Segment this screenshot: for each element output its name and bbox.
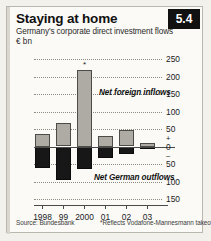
y-tick-neg150: 150 <box>166 195 180 204</box>
y-tick-250: 250 <box>166 55 180 64</box>
y-tick-100: 100 <box>166 108 180 117</box>
x-tick-99 <box>63 205 64 209</box>
bar-inflow-99 <box>56 123 71 147</box>
annotation-inflows: Net foreign inflows <box>99 88 171 97</box>
x-tick-03 <box>147 205 148 209</box>
x-tick-02 <box>126 205 127 209</box>
chart-number-badge: 5.4 <box>168 9 200 29</box>
x-tick-2000 <box>84 205 85 209</box>
gridline-250 <box>34 59 162 60</box>
gridline-50 <box>34 129 162 130</box>
bar-inflow-2000 <box>77 70 92 147</box>
chart-footer: Source: Bundesbank *Reflects Vodafone-Ma… <box>16 219 204 233</box>
left-accent-rule <box>7 7 10 234</box>
chart-units-label: € bn <box>16 37 202 47</box>
gridline-neg50 <box>34 164 162 165</box>
zero-axis-line <box>34 147 175 148</box>
bar-inflow-1998 <box>35 134 50 146</box>
chart-panel: Staying at home Germany's corporate dire… <box>6 6 203 233</box>
asterisk-marker: * <box>77 61 92 69</box>
footnote-label: *Reflects Vodafone-Mannesmann takeover <box>100 219 211 226</box>
y-tick-neg50: 50 <box>166 160 175 169</box>
bar-inflow-02 <box>119 130 134 146</box>
bar-outflow-01 <box>98 147 113 158</box>
bar-outflow-02 <box>119 147 134 155</box>
plot-area: * Net foreign inflows Net German outflow… <box>16 55 202 215</box>
annotation-outflows: Net German outflows <box>94 173 174 182</box>
gridline-200 <box>34 77 162 78</box>
y-tick-150: 150 <box>166 90 180 99</box>
y-minus-sign: – <box>166 152 170 159</box>
y-tick-neg100: 100 <box>166 178 180 187</box>
gridline-100 <box>34 112 162 113</box>
source-label: Source: Bundesbank <box>16 219 74 226</box>
gridline-neg150 <box>34 199 162 200</box>
y-tick-50: 50 <box>166 125 175 134</box>
y-plus-sign: + <box>166 135 170 142</box>
y-tick-200: 200 <box>166 73 180 82</box>
x-tick-1998 <box>42 205 43 209</box>
x-tick-01 <box>105 205 106 209</box>
bar-outflow-1998 <box>35 147 50 169</box>
y-axis-labels: 250 200 150 100 50 + 0 – 50 100 150 <box>166 55 206 205</box>
chart-figure: Staying at home Germany's corporate dire… <box>0 0 211 241</box>
bar-outflow-99 <box>56 147 71 181</box>
bar-outflow-2000 <box>77 147 92 170</box>
bar-inflow-01 <box>98 136 113 147</box>
